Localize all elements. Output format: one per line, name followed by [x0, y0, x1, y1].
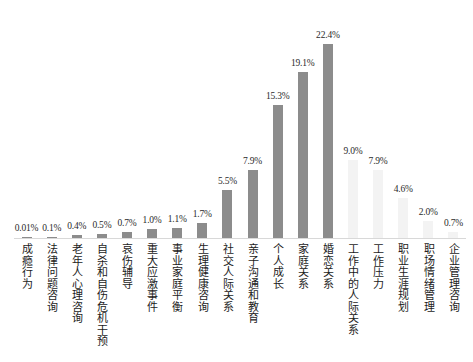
bar-slot: 0.5% — [89, 8, 114, 238]
category-label: 社交人际关系 — [221, 243, 234, 361]
bar-slot: 5.5% — [215, 8, 240, 238]
bar — [147, 229, 157, 238]
category-label-slot: 自杀和自伤危机干预 — [89, 243, 114, 361]
bar — [222, 190, 232, 238]
bar-value-label: 19.1% — [291, 58, 315, 68]
category-label-slot: 重大应激事件 — [140, 243, 165, 361]
category-label: 生理健康咨询 — [196, 243, 209, 361]
category-label: 重大应激事件 — [146, 243, 159, 361]
bar — [197, 223, 207, 238]
category-label: 自杀和自伤危机干预 — [96, 243, 109, 361]
bar-value-label: 1.7% — [193, 209, 212, 219]
bar-slot: 15.3% — [265, 8, 290, 238]
category-label: 婚恋关系 — [322, 243, 335, 361]
bar — [323, 44, 333, 238]
category-label: 职场情绪管理 — [422, 243, 435, 361]
category-label: 法律问题咨询 — [45, 243, 58, 361]
category-label-slot: 职业生涯规划 — [391, 243, 416, 361]
category-label: 哀伤辅导 — [121, 243, 134, 361]
category-label-slot: 生理健康咨询 — [190, 243, 215, 361]
bar-value-label: 0.7% — [444, 218, 463, 228]
bar-value-label: 5.5% — [218, 176, 237, 186]
category-label: 亲子沟通和教育 — [246, 243, 259, 361]
bar-value-label: 2.0% — [419, 207, 438, 217]
category-label-slot: 成瘾行为 — [14, 243, 39, 361]
bar — [248, 170, 258, 238]
bar-slot: 7.9% — [240, 8, 265, 238]
category-label-slot: 事业家庭平衡 — [165, 243, 190, 361]
category-label: 事业家庭平衡 — [171, 243, 184, 361]
bar-slot: 7.9% — [366, 8, 391, 238]
bar-value-label: 1.1% — [168, 214, 187, 224]
category-label: 个人成长 — [271, 243, 284, 361]
category-label-slot: 职场情绪管理 — [416, 243, 441, 361]
bar-value-label: 1.0% — [143, 215, 162, 225]
bar-slot: 1.7% — [190, 8, 215, 238]
bar-slot: 19.1% — [290, 8, 315, 238]
bar-value-label: 4.6% — [394, 184, 413, 194]
bar-value-label: 9.0% — [343, 146, 362, 156]
category-label-slot: 法律问题咨询 — [39, 243, 64, 361]
category-label: 成瘾行为 — [20, 243, 33, 361]
bar — [273, 105, 283, 238]
bar-slot: 0.4% — [64, 8, 89, 238]
bar-value-label: 0.01% — [15, 223, 39, 233]
plot-area: 0.01%0.1%0.4%0.5%0.7%1.0%1.1%1.7%5.5%7.9… — [14, 8, 466, 238]
bar — [423, 221, 433, 238]
bar-slot: 0.7% — [441, 8, 466, 238]
bar — [298, 72, 308, 238]
category-label: 家庭关系 — [297, 243, 310, 361]
bar-value-label: 7.9% — [369, 156, 388, 166]
bar-value-label: 0.4% — [67, 221, 86, 231]
category-label: 老年人心理咨询 — [71, 243, 84, 361]
bar-chart: 0.01%0.1%0.4%0.5%0.7%1.0%1.1%1.7%5.5%7.9… — [0, 0, 473, 362]
bar — [172, 228, 182, 238]
category-label-slot: 工作中的人际关系 — [340, 243, 365, 361]
bar-slot: 4.6% — [391, 8, 416, 238]
x-axis-labels: 成瘾行为法律问题咨询老年人心理咨询自杀和自伤危机干预哀伤辅导重大应激事件事业家庭… — [14, 243, 466, 361]
bar — [373, 170, 383, 238]
category-label-slot: 婚恋关系 — [315, 243, 340, 361]
bar-slot: 0.7% — [114, 8, 139, 238]
bar-slot: 0.1% — [39, 8, 64, 238]
category-label-slot: 亲子沟通和教育 — [240, 243, 265, 361]
bar — [348, 160, 358, 238]
bar-value-label: 0.7% — [117, 218, 136, 228]
category-label-slot: 老年人心理咨询 — [64, 243, 89, 361]
bar-value-label: 15.3% — [266, 91, 290, 101]
bar-value-label: 0.1% — [42, 223, 61, 233]
x-axis-line — [14, 238, 466, 239]
category-label: 企业管理咨询 — [447, 243, 460, 361]
bar-slot: 9.0% — [340, 8, 365, 238]
bar-value-label: 22.4% — [316, 30, 340, 40]
category-label-slot: 社交人际关系 — [215, 243, 240, 361]
bar-value-label: 7.9% — [243, 156, 262, 166]
bar — [398, 198, 408, 238]
category-label-slot: 家庭关系 — [290, 243, 315, 361]
bar-slot: 22.4% — [315, 8, 340, 238]
category-label-slot: 企业管理咨询 — [441, 243, 466, 361]
bar-slot: 0.01% — [14, 8, 39, 238]
bar-slot: 1.1% — [165, 8, 190, 238]
bar-slot: 2.0% — [416, 8, 441, 238]
category-label: 职业生涯规划 — [397, 243, 410, 361]
category-label: 工作压力 — [372, 243, 385, 361]
category-label: 工作中的人际关系 — [347, 243, 360, 361]
bar-value-label: 0.5% — [92, 220, 111, 230]
category-label-slot: 个人成长 — [265, 243, 290, 361]
bar-slot: 1.0% — [140, 8, 165, 238]
category-label-slot: 工作压力 — [366, 243, 391, 361]
category-label-slot: 哀伤辅导 — [114, 243, 139, 361]
